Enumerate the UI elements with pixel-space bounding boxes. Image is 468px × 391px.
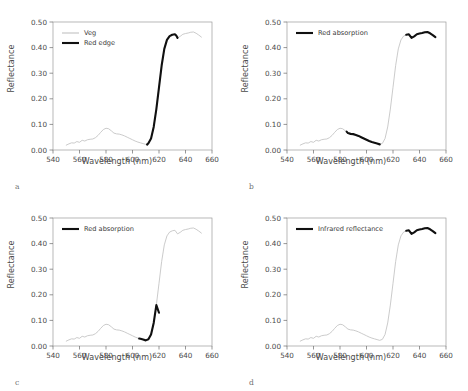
panel-b: 5405605806006206406600.000.100.200.300.4… [234,0,468,195]
y-tick-label: 0.50 [265,18,281,27]
legend-label: Red absorption [318,29,368,37]
spectrum-curve-highlight [139,305,159,340]
panel-d-xlabel: Wavelength (nm) [234,353,468,362]
y-tick-label: 0.10 [31,120,47,129]
panel-c-letter: c [15,378,19,387]
spectrum-curve-highlight [406,228,435,234]
panel-a-letter: a [15,182,20,191]
y-tick-label: 0.00 [265,146,281,155]
y-tick-label: 0.30 [31,69,47,78]
panel-b-xlabel: Wavelength (nm) [234,157,468,166]
panel-a-xlabel: Wavelength (nm) [0,157,234,166]
y-tick-label: 0.00 [31,342,47,351]
panel-c: 5405605806006206406600.000.100.200.300.4… [0,196,234,391]
y-tick-label: 0.10 [265,316,281,325]
y-tick-label: 0.20 [31,94,47,103]
panel-b-letter: b [249,182,254,191]
y-tick-label: 0.50 [31,214,47,223]
y-tick-label: 0.30 [31,265,47,274]
y-tick-label: 0.40 [31,43,47,52]
legend-label: Red edge [84,39,115,47]
y-tick-label: 0.50 [265,214,281,223]
legend-label: Infrared reflectance [318,225,383,233]
y-tick-label: 0.40 [265,239,281,248]
y-tick-label: 0.50 [31,18,47,27]
y-tick-label: 0.20 [31,290,47,299]
y-tick-label: 0.30 [265,265,281,274]
spectrum-curve-highlight [406,32,435,38]
panel-c-ylabel: Reflectance [7,210,16,320]
spectrum-curve-highlight [347,132,380,145]
panel-d-ylabel: Reflectance [241,210,250,320]
y-tick-label: 0.40 [31,239,47,248]
y-tick-label: 0.40 [265,43,281,52]
panel-d-letter: d [249,378,254,387]
panel-c-xlabel: Wavelength (nm) [0,353,234,362]
panel-a-ylabel: Reflectance [7,14,16,124]
y-tick-label: 0.30 [265,69,281,78]
panel-a: 5405605806006206406600.000.100.200.300.4… [0,0,234,195]
y-tick-label: 0.10 [265,120,281,129]
spectrum-curve-base [300,32,435,145]
panel-d: 5405605806006206406600.000.100.200.300.4… [234,196,468,391]
spectrum-curve-base [300,228,435,341]
legend-label: Red absorption [84,225,134,233]
spectrum-curve-highlight [147,34,177,144]
spectrum-curve-base [66,32,201,145]
spectrum-curve-base [66,228,201,341]
y-tick-label: 0.20 [265,290,281,299]
y-tick-label: 0.00 [265,342,281,351]
y-tick-label: 0.20 [265,94,281,103]
panel-b-ylabel: Reflectance [241,14,250,124]
y-tick-label: 0.10 [31,316,47,325]
y-tick-label: 0.00 [31,146,47,155]
reflectance-figure: 5405605806006206406600.000.100.200.300.4… [0,0,468,391]
legend-label: Veg [84,29,96,37]
